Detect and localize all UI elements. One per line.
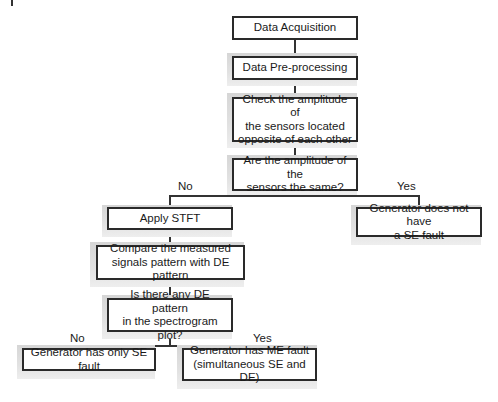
node-label-line: Are the amplitude of the bbox=[237, 154, 353, 181]
edge-label-q1-no: No bbox=[178, 180, 193, 192]
node-label: Apply STFT bbox=[140, 212, 201, 226]
node-data-preprocessing: Data Pre-processing bbox=[232, 56, 358, 80]
node-label-line: the sensors located bbox=[245, 120, 345, 134]
node-compare-pattern: Compare the measured signals pattern wit… bbox=[96, 245, 245, 280]
page-corner-mark bbox=[11, 0, 13, 6]
edge-label-q1-yes: Yes bbox=[397, 180, 416, 192]
node-label: Data Pre-processing bbox=[243, 61, 348, 75]
node-label: Data Acquisition bbox=[254, 21, 336, 35]
node-label-line: Is there any DE pattern bbox=[112, 288, 228, 315]
node-apply-stft: Apply STFT bbox=[107, 207, 233, 230]
node-label-line: Compare the measured bbox=[110, 242, 231, 256]
node-check-amplitude: Check the amplitude of the sensors locat… bbox=[232, 97, 358, 142]
node-label-line: opposite of each other bbox=[238, 133, 352, 147]
node-label: Generator has only SE fault bbox=[27, 346, 151, 373]
edge-label-q2-yes: Yes bbox=[253, 332, 272, 344]
node-only-se-fault: Generator has only SE fault bbox=[22, 348, 156, 371]
connector-q1-horizontal bbox=[169, 195, 419, 197]
decision-same-amplitude: Are the amplitude of the sensors the sam… bbox=[232, 158, 358, 191]
node-me-fault: Generator has ME fault (simultaneous SE … bbox=[182, 348, 317, 381]
node-label-line: in the spectrogram plot? bbox=[112, 315, 228, 342]
node-label-line: Generator does not have bbox=[361, 202, 477, 229]
decision-de-pattern: Is there any DE pattern in the spectrogr… bbox=[107, 298, 233, 332]
node-label-line: (simultaneous SE and DE) bbox=[187, 358, 312, 385]
node-label-line: sensors the same? bbox=[246, 181, 343, 195]
node-no-se-fault: Generator does not have a SE fault bbox=[356, 207, 482, 237]
node-label-line: a SE fault bbox=[394, 229, 444, 243]
node-label-line: Check the amplitude of bbox=[237, 93, 353, 120]
edge-label-q2-no: No bbox=[70, 332, 85, 344]
node-label-line: signals pattern with DE pattern bbox=[101, 256, 240, 283]
node-label-line: Generator has ME fault bbox=[190, 344, 309, 358]
node-data-acquisition: Data Acquisition bbox=[232, 16, 358, 40]
